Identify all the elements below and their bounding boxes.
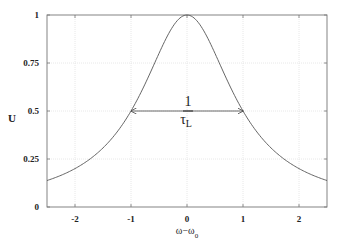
y-tick-label: 0.25 <box>23 154 39 164</box>
y-tick-label: 0 <box>35 202 40 212</box>
x-tick-label: 2 <box>297 214 302 224</box>
x-tick-label: 1 <box>241 214 246 224</box>
y-tick-label: 1 <box>35 10 40 20</box>
x-tick-label: 0 <box>185 214 190 224</box>
x-tick-label: -2 <box>71 214 79 224</box>
x-label-main: ω−ω <box>176 225 195 236</box>
y-axis-label: U <box>8 112 16 124</box>
fwhm-denominator: τL <box>180 112 192 129</box>
lorentzian-chart: 00.250.50.751 -2-1012 1τL U ω−ω0 <box>0 0 343 245</box>
y-tick-label: 0.75 <box>23 58 39 68</box>
y-tick-label: 0.5 <box>28 106 40 116</box>
x-axis-label: ω−ω0 <box>176 225 199 240</box>
x-tick-label: -1 <box>127 214 135 224</box>
fwhm-label: 1τL <box>180 94 193 129</box>
fwhm-numerator: 1 <box>185 94 192 109</box>
x-label-subscript: 0 <box>195 232 199 240</box>
